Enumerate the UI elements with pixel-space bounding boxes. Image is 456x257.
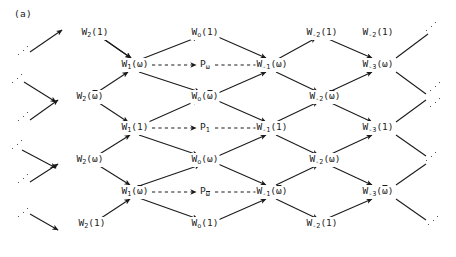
node-p2: Pω: [199, 185, 211, 199]
figure-canvas: (a) W2(1)W1(ω)W2(ω)W1(1)W2(ω)W1(ω)W2(1)W…: [0, 0, 456, 257]
edge: [276, 165, 318, 185]
ellipsis-dot: [435, 22, 436, 23]
ellipsis-mark: [426, 22, 438, 34]
edge: [326, 38, 372, 58]
node-f2: W-3(1): [361, 121, 394, 135]
ellipsis-dot: [27, 208, 28, 209]
node-r6: W-2(1): [305, 217, 338, 231]
edge: [139, 37, 198, 60]
edge: [276, 199, 318, 219]
node-f3: W-3(ω): [361, 185, 394, 199]
ellipsis-dot: [430, 90, 431, 91]
edge: [22, 150, 56, 168]
ellipsis-dot: [27, 174, 28, 175]
node-n5: W1(ω): [120, 185, 149, 199]
ellipsis-mark: [430, 98, 442, 110]
ellipsis-dot: [431, 156, 432, 157]
ellipsis-dot: [23, 178, 24, 179]
edge: [30, 100, 58, 120]
ellipsis-dot: [23, 50, 24, 51]
ellipsis-dot: [21, 74, 22, 75]
ellipsis-dot: [17, 144, 18, 145]
edge: [139, 72, 200, 92]
ellipsis-dot: [17, 78, 18, 79]
node-m3: Wo(1): [191, 217, 220, 231]
edge: [396, 34, 428, 58]
ellipsis-mark: [12, 140, 24, 152]
node-p0: Pω: [199, 58, 211, 72]
ellipsis-dot: [21, 140, 22, 141]
ellipsis-dot: [426, 160, 427, 161]
node-p1: P1: [199, 121, 211, 135]
edge: [329, 165, 372, 185]
edge: [396, 199, 426, 220]
node-n0: W2(1): [81, 26, 110, 40]
ellipsis-dot: [27, 46, 28, 47]
edge: [396, 100, 426, 122]
edge: [24, 82, 56, 102]
ellipsis-dot: [18, 54, 19, 55]
ellipsis-dot: [23, 212, 24, 213]
ellipsis-mark: [18, 112, 30, 124]
ellipsis-dot: [18, 182, 19, 183]
node-r4: W-2(ω): [308, 153, 341, 167]
ellipsis-mark: [18, 208, 30, 220]
edge: [139, 198, 198, 219]
node-f0: W-2(1): [361, 26, 394, 40]
ellipsis-mark: [12, 74, 24, 86]
node-r1: W-1(ω): [255, 58, 288, 72]
node-r2: W-2(ω): [308, 90, 341, 104]
node-n3: W1(1): [121, 121, 150, 135]
ellipsis-mark: [430, 82, 442, 94]
edge: [329, 72, 372, 92]
incoming-stub-arrow-group: [22, 30, 62, 230]
edge: [276, 135, 318, 155]
ellipsis-dot: [435, 152, 436, 153]
ellipsis-dot: [431, 26, 432, 27]
edge: [329, 102, 372, 122]
node-n2: W2(ω): [75, 90, 104, 104]
ellipsis-dot: [23, 116, 24, 117]
edge: [139, 135, 198, 155]
edge: [329, 135, 372, 155]
ellipsis-mark: [18, 46, 30, 58]
ellipsis-mark: [428, 216, 440, 228]
node-r3: W-1(1): [255, 121, 288, 135]
node-n6: W2(1): [78, 217, 107, 231]
node-n1: W1(ω): [121, 58, 150, 72]
ellipsis-dot: [426, 30, 427, 31]
edge: [276, 38, 316, 60]
edge: [396, 164, 426, 185]
edge: [30, 30, 62, 52]
edge: [30, 164, 58, 182]
node-f1: W-3(ω): [361, 58, 394, 72]
edge: [276, 72, 318, 92]
node-m0: Wo(1): [191, 26, 220, 40]
edge: [276, 102, 318, 122]
ellipsis-dot: [439, 82, 440, 83]
node-m2: Wo(ω): [191, 153, 220, 167]
node-r5: W-1(ω): [255, 185, 288, 199]
ellipsis-dot: [435, 102, 436, 103]
edge: [30, 214, 58, 230]
ellipsis-dot: [433, 220, 434, 221]
ellipsis-dot: [12, 148, 13, 149]
edge: [326, 199, 372, 219]
ellipsis-dot: [18, 216, 19, 217]
edge: [396, 72, 426, 94]
ellipsis-mark: [426, 152, 438, 164]
ellipsis-dot: [18, 120, 19, 121]
node-m1: Wo(ω): [190, 90, 219, 104]
edge: [396, 135, 426, 156]
outgoing-stub-line-group: [396, 34, 428, 220]
ellipsis-dot: [430, 106, 431, 107]
ellipsis-dot: [27, 112, 28, 113]
ellipsis-mark: [18, 174, 30, 186]
node-r0: W-2(1): [305, 26, 338, 40]
ellipsis-dot: [437, 216, 438, 217]
ellipsis-dot: [439, 98, 440, 99]
node-n4: W2(ω): [76, 153, 105, 167]
edge: [139, 165, 200, 186]
ellipsis-dot: [12, 82, 13, 83]
ellipsis-dot: [428, 224, 429, 225]
